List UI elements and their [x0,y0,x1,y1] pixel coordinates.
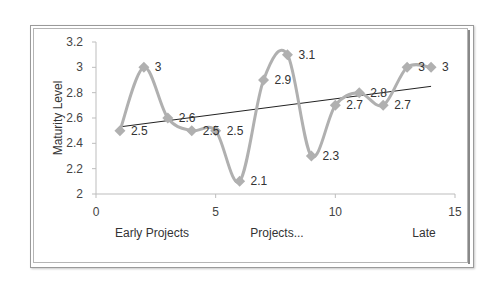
data-label: 3 [155,60,162,74]
y-tick-label: 2.6 [66,111,83,125]
x-category-late: Late [412,226,436,240]
data-label: 2.7 [394,98,411,112]
y-tick-label: 2.8 [66,86,83,100]
data-label: 2.7 [346,98,363,112]
x-tick-label: 0 [93,205,100,219]
x-category-projects: Projects... [250,226,303,240]
y-tick-label: 3.2 [66,35,83,49]
data-label: 2.6 [179,111,196,125]
y-tick-label: 2 [76,187,83,201]
data-label: 2.5 [131,124,148,138]
data-label: 3 [442,60,449,74]
x-category-early: Early Projects [115,226,189,240]
y-tick-label: 2.4 [66,136,83,150]
axes: 22.22.42.62.833.2051015 [66,35,462,219]
diamond-marker [306,151,317,162]
data-label: 3.1 [298,48,315,62]
data-label: 2.9 [275,73,292,87]
diamond-marker [426,62,437,73]
data-label: 2.3 [322,149,339,163]
data-series [114,49,436,187]
data-label: 2.5 [227,124,244,138]
x-tick-label: 15 [448,205,462,219]
maturity-chart: 22.22.42.62.833.2051015 2.532.62.52.52.1… [0,0,501,289]
data-label: 2.1 [251,174,268,188]
y-tick-label: 2.2 [66,162,83,176]
y-axis-title: Maturity Level [51,81,65,156]
data-label: 2.8 [370,86,387,100]
diamond-marker [234,176,245,187]
x-tick-label: 5 [212,205,219,219]
diamond-marker [186,125,197,136]
data-labels: 2.532.62.52.52.12.93.12.32.72.82.733 [131,48,449,189]
data-label: 2.5 [203,124,220,138]
diamond-marker [258,75,269,86]
y-tick-label: 3 [76,60,83,74]
x-tick-label: 10 [329,205,343,219]
data-label: 3 [418,60,425,74]
